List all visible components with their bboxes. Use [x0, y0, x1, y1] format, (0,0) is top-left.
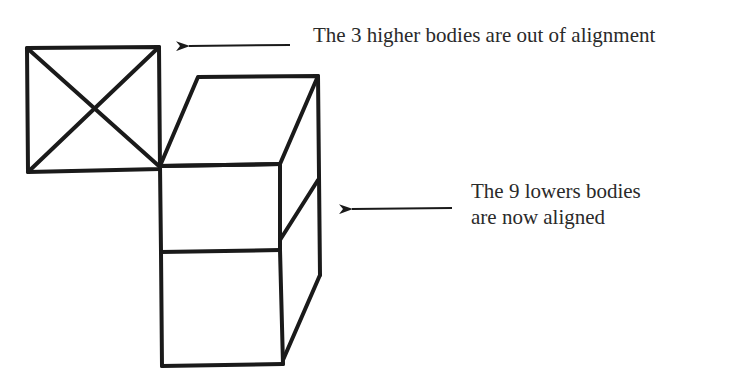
higher-bodies-annotation: The 3 higher bodies are out of alignment: [313, 22, 655, 48]
lower-bodies-annotation: The 9 lowers bodies are now aligned: [471, 178, 641, 230]
arrow-to-higher-bodies: [189, 45, 290, 46]
higher-bodies-text: The 3 higher bodies are out of alignment: [313, 23, 655, 47]
top-parallelogram: [160, 76, 318, 166]
arrow-to-lower-bodies: [352, 208, 452, 209]
left-square-face: [27, 47, 160, 172]
diagram-canvas: The 3 higher bodies are out of alignment…: [0, 0, 738, 390]
front-upper-box: [160, 164, 280, 252]
front-lower-box: [161, 250, 283, 366]
lower-bodies-text-line2: are now aligned: [471, 204, 641, 230]
lower-bodies-text-line1: The 9 lowers bodies: [471, 178, 641, 204]
